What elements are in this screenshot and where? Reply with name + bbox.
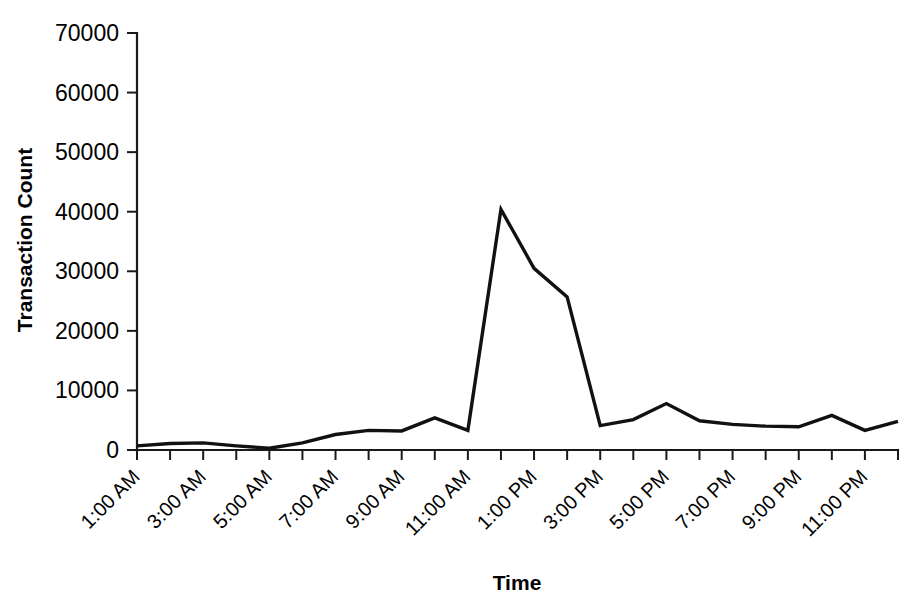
y-axis-tick-label: 70000 (55, 20, 119, 46)
transaction-count-line-chart: 010000200003000040000500006000070000 1:0… (0, 0, 924, 616)
chart-canvas: 010000200003000040000500006000070000 1:0… (0, 0, 924, 616)
y-axis-tick-label: 40000 (55, 199, 119, 225)
y-axis-tick-label: 10000 (55, 377, 119, 403)
x-axis-title: Time (493, 571, 542, 594)
y-axis-title: Transaction Count (13, 148, 36, 332)
y-axis-tick-label: 20000 (55, 318, 119, 344)
chart-background (0, 0, 924, 616)
y-axis-tick-label: 30000 (55, 258, 119, 284)
y-axis-tick-label: 50000 (55, 139, 119, 165)
y-axis-tick-label: 60000 (55, 80, 119, 106)
y-axis-tick-label: 0 (106, 437, 119, 463)
